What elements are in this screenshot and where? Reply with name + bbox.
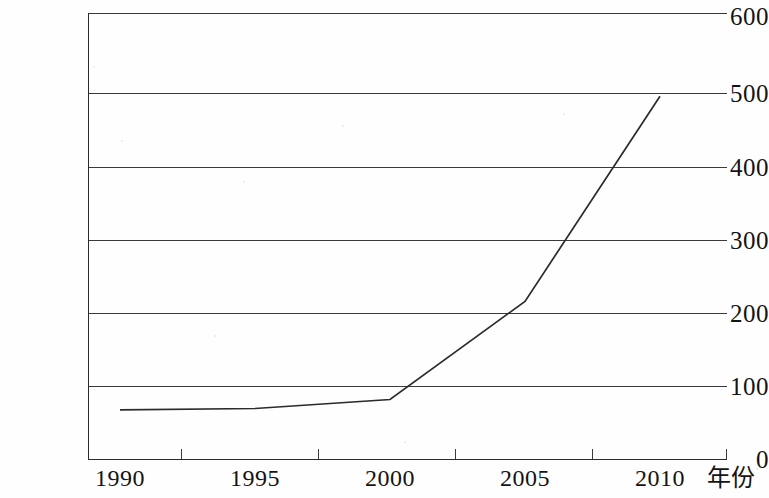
data-series-layer [0,0,769,498]
scan-speck [563,113,565,115]
scan-speck [342,125,344,127]
scan-speck [93,66,95,68]
scan-speck [404,441,406,443]
line-chart: 600 500 400 300 200 100 0 1990 1995 2000… [0,0,769,498]
scan-speck [756,468,758,470]
scan-speck [121,140,123,142]
data-series-line [120,96,660,410]
scan-speck [243,181,245,183]
scan-speck [214,335,216,337]
